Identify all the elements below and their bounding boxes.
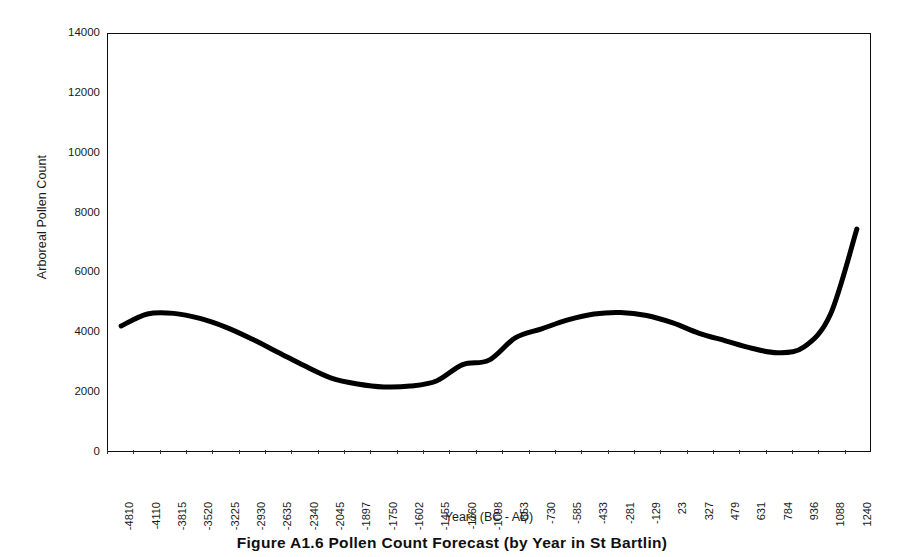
y-tick-label: 0	[44, 445, 100, 457]
x-axis-title: Years (BC - AD)	[107, 510, 871, 524]
x-tick-mark	[845, 450, 846, 454]
x-tick-mark	[291, 450, 292, 454]
x-tick-mark	[397, 450, 398, 454]
pollen-count-line-series	[108, 34, 870, 451]
x-tick-mark	[212, 450, 213, 454]
figure-caption: Figure A1.6 Pollen Count Forecast (by Ye…	[0, 534, 904, 552]
y-tick-label: 2000	[44, 385, 100, 397]
x-tick-mark	[581, 450, 582, 454]
x-tick-mark	[739, 450, 740, 454]
x-tick-mark	[370, 450, 371, 454]
x-tick-mark	[265, 450, 266, 454]
x-tick-mark	[687, 450, 688, 454]
y-tick-label: 12000	[44, 86, 100, 98]
x-tick-mark	[423, 450, 424, 454]
x-tick-mark	[107, 450, 108, 454]
x-tick-mark	[792, 450, 793, 454]
y-tick-label: 6000	[44, 265, 100, 277]
x-axis-tick-labels: -4810-4110-3815-3520-3225-2930-2635-2340…	[107, 454, 871, 510]
x-tick-mark	[766, 450, 767, 454]
figure-container: Arboreal Pollen Count 020004000600080001…	[0, 0, 904, 557]
x-tick-mark	[818, 450, 819, 454]
y-tick-label: 8000	[44, 206, 100, 218]
x-tick-mark	[239, 450, 240, 454]
x-tick-mark	[634, 450, 635, 454]
x-tick-mark	[502, 450, 503, 454]
x-tick-mark	[660, 450, 661, 454]
x-tick-mark	[318, 450, 319, 454]
pollen-count-curve	[121, 229, 857, 387]
y-tick-label: 10000	[44, 146, 100, 158]
x-tick-mark	[713, 450, 714, 454]
x-tick-mark	[608, 450, 609, 454]
x-tick-mark	[160, 450, 161, 454]
plot-area	[107, 33, 871, 452]
x-tick-mark	[344, 450, 345, 454]
x-tick-mark	[449, 450, 450, 454]
y-tick-label: 14000	[44, 26, 100, 38]
x-tick-mark	[555, 450, 556, 454]
y-tick-label: 4000	[44, 325, 100, 337]
x-tick-mark	[529, 450, 530, 454]
y-axis-tick-labels: 02000400060008000100001200014000	[40, 0, 100, 557]
x-tick-mark	[186, 450, 187, 454]
x-tick-mark	[476, 450, 477, 454]
x-tick-mark	[133, 450, 134, 454]
